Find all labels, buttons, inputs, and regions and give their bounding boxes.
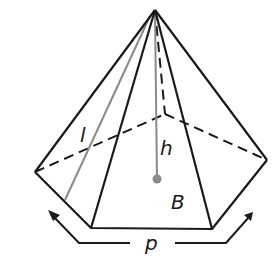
base-area-label: B [171, 190, 185, 214]
hidden-edges [35, 10, 267, 172]
lateral-edge-apex-left [35, 10, 155, 172]
perimeter-arrow-left-segment [53, 216, 130, 243]
base-center-point [153, 175, 162, 184]
arrow-head-left-icon [48, 210, 60, 221]
perimeter-label: p [144, 231, 158, 255]
height-label: h [160, 136, 173, 160]
pyramid-diagram: l h B p [0, 0, 274, 262]
visible-edges [35, 10, 267, 229]
slant-height-label: l [80, 123, 86, 147]
visible-base-edges [35, 160, 267, 229]
height-line [155, 12, 157, 179]
hidden-base-edge-back-right [165, 114, 267, 160]
lateral-edge-apex-front-left [91, 10, 155, 228]
